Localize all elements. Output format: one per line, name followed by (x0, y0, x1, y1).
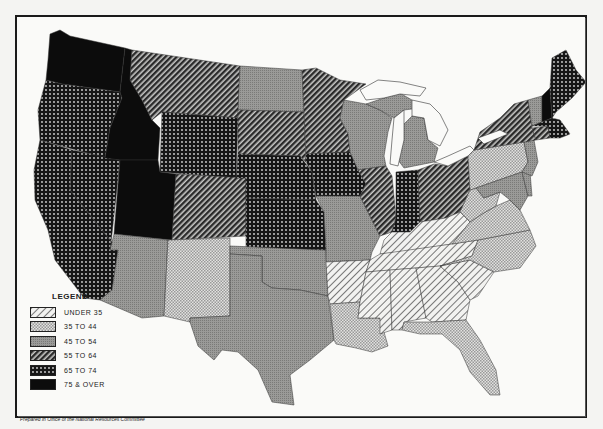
swatch-hatch-light (30, 307, 56, 318)
state-kansas (246, 198, 326, 250)
legend-label: 75 & OVER (64, 381, 105, 388)
state-nebraska (236, 154, 316, 200)
swatch-dots (30, 365, 56, 376)
legend-label: 45 TO 54 (64, 338, 97, 345)
state-north-dakota (238, 66, 304, 112)
state-colorado (172, 174, 246, 240)
legend-item-45-54: 45 TO 54 (30, 334, 140, 349)
swatch-check (30, 321, 56, 332)
legend-item-under-35: UNDER 35 (30, 305, 140, 320)
state-new-mexico (164, 238, 230, 322)
legend-item-55-64: 55 TO 64 (30, 349, 140, 364)
footer-credit: Prepared in Office of the National Resou… (20, 416, 145, 422)
state-montana (130, 50, 240, 120)
legend: LEGEND UNDER 35 35 TO 44 45 TO 54 55 TO … (30, 292, 140, 392)
swatch-hatch-dark (30, 350, 56, 361)
legend-label: 35 TO 44 (64, 323, 97, 330)
state-wyoming (160, 112, 238, 178)
state-indiana (392, 170, 420, 234)
legend-item-65-74: 65 TO 74 (30, 363, 140, 378)
state-washington (46, 30, 125, 92)
legend-label: UNDER 35 (64, 309, 103, 316)
swatch-black (30, 379, 56, 390)
swatch-gray (30, 336, 56, 347)
state-maine (550, 50, 586, 118)
legend-item-35-44: 35 TO 44 (30, 320, 140, 335)
legend-item-75-over: 75 & OVER (30, 378, 140, 393)
legend-title: LEGEND (52, 292, 140, 301)
legend-label: 55 TO 64 (64, 352, 97, 359)
legend-label: 65 TO 74 (64, 367, 97, 374)
state-florida (402, 320, 500, 395)
